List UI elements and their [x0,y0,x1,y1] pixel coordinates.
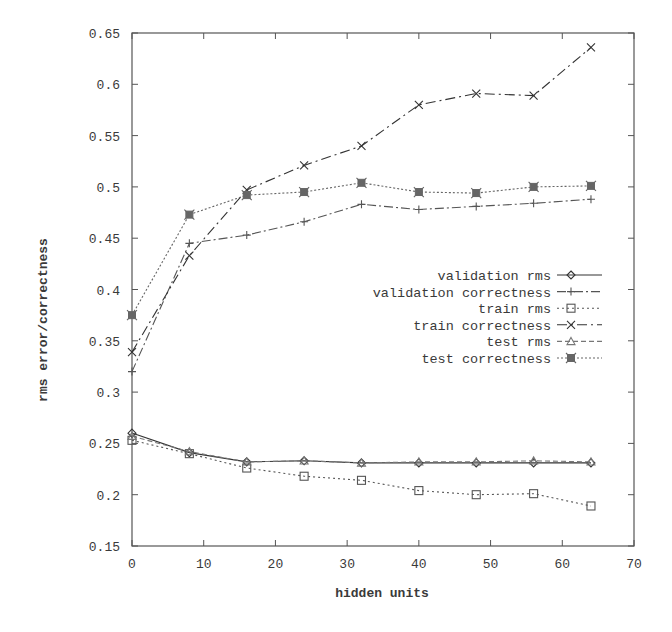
legend-item: train correctness [413,319,602,334]
x-tick-label: 10 [196,557,212,572]
x-tick-label: 40 [411,557,427,572]
y-tick-label: 0.5 [97,181,120,196]
plus-marker-icon [415,205,423,213]
y-axis-title: rms error/correctness [36,238,51,402]
plus-marker-icon [128,368,136,376]
series-test-rms [128,432,595,466]
y-tick-label: 0.2 [97,489,120,504]
legend-item: train rms [478,302,602,317]
cross-marker-icon [185,252,193,260]
plus-marker-icon [185,239,193,247]
legend: validation rmsvalidation correctnesstrai… [373,269,602,367]
y-tick-label: 0.25 [89,437,120,452]
chart-canvas: 0.150.20.250.30.350.40.450.50.550.60.65 … [0,0,672,632]
y-tick-label: 0.3 [97,386,120,401]
x-tick-label: 70 [626,557,642,572]
legend-label: train correctness [413,319,551,334]
plus-marker-icon [472,202,480,210]
y-tick-label: 0.45 [89,232,120,247]
legend-item: validation correctness [373,286,602,301]
legend-item: test rms [486,335,602,350]
x-tick-label: 30 [339,557,355,572]
cross-marker-icon [300,161,308,169]
series-train-rms [128,436,595,510]
legend-label: test rms [486,335,551,350]
plus-marker-icon [243,231,251,239]
y-tick-label: 0.15 [89,540,120,555]
plus-marker-icon [300,218,308,226]
cross-marker-icon [357,142,365,150]
series-line [132,440,591,506]
x-axis-title: hidden units [335,586,429,601]
legend-label: validation correctness [373,286,551,301]
x-tick-label: 0 [128,557,136,572]
line-chart: 0.150.20.250.30.350.40.450.50.550.60.65 … [0,0,672,632]
plus-marker-icon [567,288,575,296]
y-tick-label: 0.55 [89,130,120,145]
x-axis-ticks: 010203040506070 [128,33,642,572]
x-tick-label: 50 [483,557,499,572]
legend-label: validation rms [438,269,551,284]
legend-label: train rms [478,302,551,317]
x-tick-label: 60 [554,557,570,572]
x-tick-label: 20 [268,557,284,572]
cross-marker-icon [587,43,595,51]
y-tick-label: 0.65 [89,27,120,42]
y-tick-label: 0.4 [97,284,121,299]
cross-marker-icon [567,321,575,329]
plus-marker-icon [357,200,365,208]
cross-marker-icon [415,101,423,109]
plus-marker-icon [530,199,538,207]
legend-item: test correctness [421,352,602,367]
legend-label: test correctness [421,352,551,367]
plus-marker-icon [587,195,595,203]
legend-item: validation rms [438,269,602,284]
y-tick-label: 0.35 [89,335,120,350]
y-tick-label: 0.6 [97,78,120,93]
